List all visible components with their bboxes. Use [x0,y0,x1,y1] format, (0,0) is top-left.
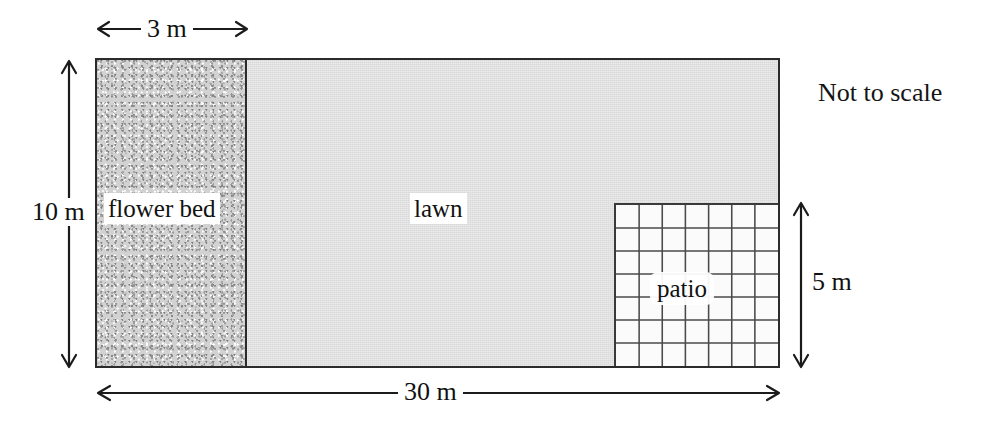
patio-label: patio [650,272,714,305]
dimension-label-3m: 3 m [141,15,193,43]
dimension-label-10m: 10 m [26,198,91,226]
dimension-label-5m: 5 m [806,268,858,296]
not-to-scale-note: Not to scale [818,80,942,106]
lawn-label: lawn [410,193,467,224]
dimension-label-30m: 30 m [398,378,463,406]
flower-bed-label: flower bed [104,193,220,224]
garden-plan-diagram: flower bed lawn patio 3 m 10 m 30 m 5 m … [0,0,999,440]
